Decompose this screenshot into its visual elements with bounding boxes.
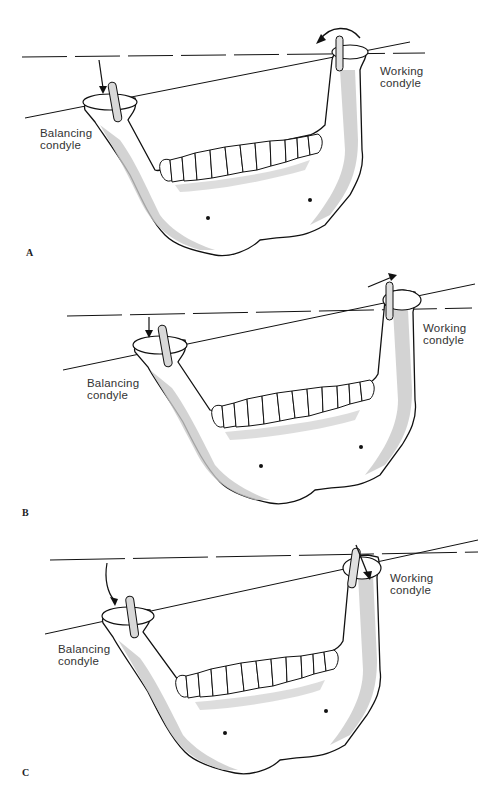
balancing-condyle-label: Balancingcondyle: [40, 127, 92, 151]
panel-c: Balancingcondyle Workingcondyle C: [0, 530, 498, 792]
balancing-arrow-icon: [99, 60, 103, 88]
balancing-condyle-label: Balancingcondyle: [58, 643, 110, 667]
working-condyle-label: Workingcondyle: [423, 322, 466, 346]
balancing-arrow-icon: [106, 563, 114, 600]
horizontal-reference-line: [50, 552, 478, 560]
balancing-condyle-label: Balancingcondyle: [87, 377, 139, 401]
working-condyle-label: Workingcondyle: [380, 65, 423, 89]
working-condyle-label: Workingcondyle: [390, 572, 433, 596]
panel-a: Balancingcondyle Workingcondyle A: [0, 0, 498, 270]
panel-b: Balancingcondyle Workingcondyle B: [0, 270, 498, 530]
mandible-diagram-b: [0, 270, 498, 530]
panel-letter: A: [26, 247, 33, 258]
panel-letter: C: [22, 767, 29, 778]
panel-letter: B: [22, 507, 29, 518]
